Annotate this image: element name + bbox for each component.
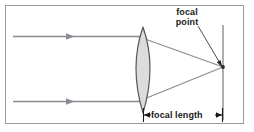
diagram-canvas [0, 0, 254, 132]
focal-point-label-line1: focal [176, 7, 198, 17]
focal-point-label: focal point [165, 7, 209, 27]
focal-length-label: focal length [151, 110, 203, 120]
optics-diagram: focal point focal length [0, 0, 254, 132]
focal-point-label-line2: point [165, 17, 209, 27]
